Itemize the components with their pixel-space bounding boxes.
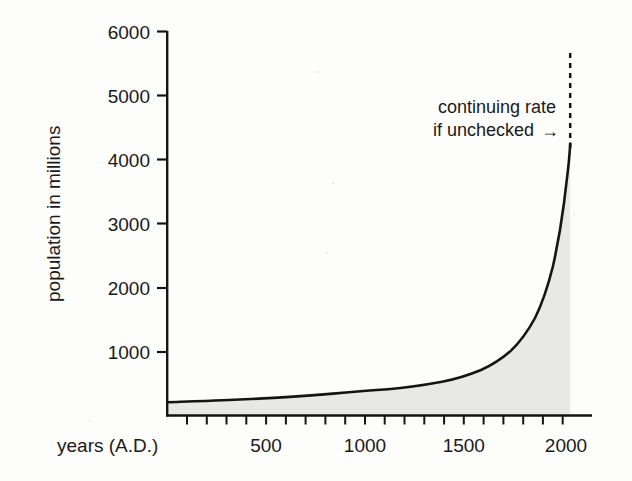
- annotation-line-1: continuing rate: [438, 97, 556, 117]
- y-axis-title: population in millions: [43, 126, 64, 302]
- x-tick-label-500: 500: [250, 435, 282, 456]
- population-growth-figure: 6000 5000 4000 3000 2000 1000 population…: [0, 0, 632, 481]
- x-tick-label-1000: 1000: [344, 435, 386, 456]
- y-tick-label-1000: 1000: [108, 342, 150, 363]
- annotation-line-2: if unchecked: [433, 120, 534, 140]
- y-tick-label-2000: 2000: [108, 278, 150, 299]
- chart-canvas: 6000 5000 4000 3000 2000 1000 population…: [0, 0, 632, 481]
- y-tick-label-4000: 4000: [108, 150, 150, 171]
- annotation-arrow-icon: →: [541, 121, 559, 141]
- y-tick-label-6000: 6000: [108, 22, 150, 43]
- x-tick-label-2000: 2000: [545, 435, 587, 456]
- x-axis-title: years (A.D.): [57, 435, 158, 456]
- y-tick-label-5000: 5000: [108, 86, 150, 107]
- y-tick-label-3000: 3000: [108, 214, 150, 235]
- x-tick-label-1500: 1500: [443, 435, 485, 456]
